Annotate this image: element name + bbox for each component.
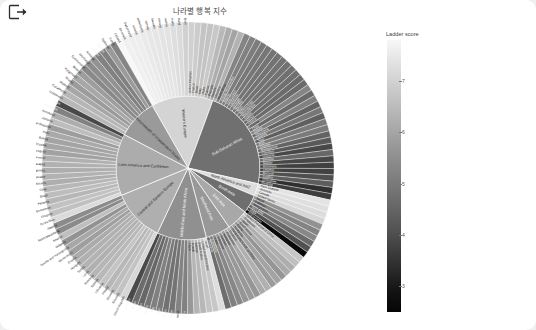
country-label: Libya	[188, 243, 192, 251]
sunburst-svg[interactable]: Western EuropeFinlandDenmarkSwitzerlandI…	[36, 18, 340, 318]
colorbar-legend: Ladder score 76543	[386, 31, 476, 316]
sunburst-chart: Western EuropeFinlandDenmarkSwitzerlandI…	[36, 18, 340, 318]
country-label: Lebanon	[168, 310, 173, 318]
colorbar-tick-3: 3	[402, 283, 405, 289]
country-label: Algeria	[182, 311, 186, 318]
country-label: Nicaragua	[36, 162, 45, 166]
colorbar-tick-6: 6	[402, 129, 405, 135]
colorbar-tick-7: 7	[402, 78, 405, 84]
country-label: Bolivia	[39, 136, 49, 142]
country-label: Argentina	[36, 168, 45, 172]
colorbar-tick-5: 5	[402, 181, 405, 187]
colorbar-tick-4: 4	[402, 232, 405, 238]
page-title: 나라별 행복 지수	[0, 5, 400, 16]
country-label: Iran	[156, 307, 161, 313]
country-label: Ecuador	[36, 142, 47, 148]
country-label: Ireland	[177, 18, 182, 26]
country-label: Morocco	[175, 310, 180, 318]
country-label: Belgium	[183, 18, 187, 25]
app-root: 나라별 행복 지수 Western EuropeFinlandDenmarkSw…	[0, 0, 536, 330]
country-label: Paraguay	[36, 148, 47, 154]
colorbar-title: Ladder score	[386, 31, 419, 37]
country-label: Colombia	[36, 155, 46, 160]
country-label: Peru	[42, 130, 50, 136]
